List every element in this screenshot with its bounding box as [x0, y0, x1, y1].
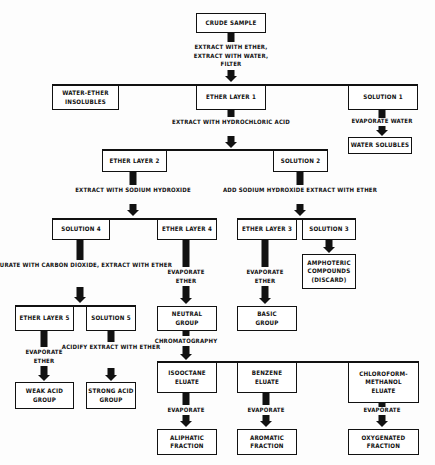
connector — [41, 331, 48, 347]
node-aromatic-fraction: AROMATIC FRACTION — [237, 429, 297, 455]
connector — [183, 240, 190, 267]
node-neutral-group: NEUTRAL GROUP — [157, 306, 217, 331]
connector — [228, 110, 235, 117]
step-evaporate-water: EVAPORATE WATER — [351, 117, 412, 126]
step-add-naoh-extract-ether: ADD SODIUM HYDROXIDE EXTRACT WITH ETHER — [223, 186, 377, 195]
step-evaporate-chloroform: EVAPORATE — [363, 406, 400, 415]
arrow-down-icon — [376, 130, 388, 136]
step-acidify: ACIDIFY EXTRACT WITH ETHER — [62, 343, 160, 352]
connector — [183, 346, 190, 354]
node-basic-group: BASIC GROUP — [237, 306, 297, 331]
arrow-down-icon — [127, 210, 139, 216]
connector — [262, 286, 269, 298]
arrow-down-icon — [259, 298, 271, 304]
step-evaporate-ether-4: EVAPORATE ETHER — [167, 268, 204, 285]
node-ether-layer-2: ETHER LAYER 2 — [102, 150, 167, 172]
connector — [108, 368, 115, 375]
node-isooctane-eluate: ISOOCTANE ELUATE — [157, 362, 217, 393]
arrow-down-icon — [376, 421, 388, 427]
node-amphoteric-compounds: AMPHOTERIC COMPOUNDS (DISCARD) — [302, 254, 356, 289]
arrow-down-icon — [180, 421, 192, 427]
connector — [41, 366, 48, 375]
node-solution-4: SOLUTION 4 — [52, 219, 110, 240]
arrow-down-icon — [74, 297, 86, 303]
step-evaporate-ether-3: EVAPORATE ETHER — [246, 268, 283, 285]
step-evaporate-ether-5: EVAPORATE ETHER — [25, 348, 62, 365]
connector — [108, 331, 115, 342]
node-chloroform-methanol-eluate: CHLOROFORM- METHANOL ELUATE — [348, 362, 419, 403]
arrow-down-icon — [323, 247, 335, 253]
node-water-ether-insolubles: WATER-ETHER INSOLUBLES — [52, 85, 119, 110]
node-ether-layer-5: ETHER LAYER 5 — [15, 306, 74, 331]
node-solution-2: SOLUTION 2 — [273, 150, 328, 172]
step-chromatography: CHROMATOGRAPHY — [155, 337, 218, 346]
arrow-down-icon — [105, 375, 117, 381]
node-oxygenated-fraction: OXYGENATED FRACTION — [348, 429, 419, 455]
step-extract-ether-water-filter: EXTRACT WITH ETHER, EXTRACT WITH WATER, … — [194, 43, 268, 69]
node-solution-3: SOLUTION 3 — [302, 219, 356, 240]
step-evaporate-benzene: EVAPORATE — [247, 406, 284, 415]
connector — [263, 393, 270, 405]
connector — [77, 240, 84, 260]
arrow-down-icon — [180, 354, 192, 360]
arrow-down-icon — [260, 421, 272, 427]
node-weak-acid-group: WEAK ACID GROUP — [15, 382, 74, 409]
arrow-down-icon — [225, 142, 237, 148]
connector — [130, 172, 137, 185]
node-strong-acid-group: STRONG ACID GROUP — [86, 382, 136, 409]
node-solution-5: SOLUTION 5 — [86, 306, 136, 331]
node-benzene-eluate: BENZENE ELUATE — [237, 362, 297, 393]
connector — [183, 331, 190, 336]
node-crude-sample: CRUDE SAMPLE — [196, 13, 266, 33]
arrow-down-icon — [180, 298, 192, 304]
arrow-down-icon — [38, 375, 50, 381]
connector — [183, 286, 190, 298]
node-ether-layer-3: ETHER LAYER 3 — [237, 219, 297, 240]
node-water-solubles: WATER SOLUBLES — [348, 137, 412, 154]
connector — [77, 287, 84, 297]
node-solution-1: SOLUTION 1 — [348, 85, 418, 110]
connector — [183, 393, 190, 405]
connector — [262, 240, 269, 267]
step-saturate-co2: SATURATE WITH CARBON DIOXIDE, EXTRACT WI… — [0, 261, 172, 270]
step-evaporate-isooctane: EVAPORATE — [167, 406, 204, 415]
node-ether-layer-1: ETHER LAYER 1 — [196, 85, 266, 110]
step-extract-hcl: EXTRACT WITH HYDROCHLORIC ACID — [172, 118, 290, 127]
step-extract-naoh: EXTRACT WITH SODIUM HYDROXIDE — [75, 186, 191, 195]
node-ether-layer-4: ETHER LAYER 4 — [157, 219, 217, 240]
arrow-down-icon — [225, 76, 237, 82]
connector — [228, 33, 235, 42]
node-aliphatic-fraction: ALIPHATIC FRACTION — [157, 429, 217, 455]
arrow-down-icon — [294, 210, 306, 216]
connector — [297, 172, 304, 185]
